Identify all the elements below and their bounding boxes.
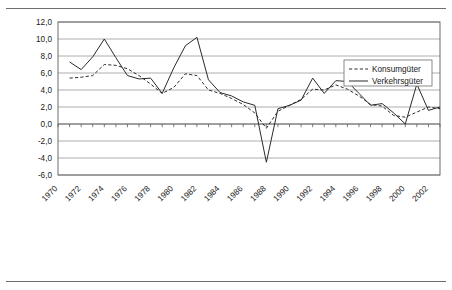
x-axis-tick-label: 1970 [40, 184, 60, 204]
y-axis-tick-label: 10,0 [36, 35, 52, 44]
y-axis-tick-label: 4,0 [41, 86, 53, 95]
legend-label-konsumgüter: Konsumgüter [372, 65, 421, 74]
y-axis-tick-label: 0,0 [41, 120, 53, 129]
x-axis-tick-label: 2000 [387, 184, 407, 204]
x-axis-tick-label: 1990 [272, 184, 292, 204]
y-axis-tick-label: 6,0 [41, 69, 53, 78]
y-axis-label-group: 12,010,08,06,04,02,00,0-2,0-4,0-6,0 [36, 18, 52, 180]
x-axis-tick-label: 1976 [110, 184, 130, 204]
x-axis-tick-label: 1978 [133, 184, 153, 204]
chart-plot-area: 12,010,08,06,04,02,00,0-2,0-4,0-6,0 1970… [0, 12, 452, 278]
x-axis-tick-label: 1992 [295, 184, 315, 204]
chart-legend: KonsumgüterVerkehrsgüter [344, 60, 432, 86]
gridline-group [58, 22, 440, 175]
x-axis-tick-group [58, 124, 440, 127]
y-axis-tick-label: -6,0 [38, 171, 53, 180]
x-axis-tick-label: 1996 [341, 184, 361, 204]
legend-label-verkehrsgüter: Verkehrsgüter [372, 77, 423, 86]
x-axis-tick-label: 1980 [156, 184, 176, 204]
y-axis-tick-label: 12,0 [36, 18, 52, 27]
y-axis-tick-label: -4,0 [38, 154, 53, 163]
x-axis-tick-label: 1998 [364, 184, 384, 204]
y-axis-tick-label: 2,0 [41, 103, 53, 112]
line-chart-svg: 12,010,08,06,04,02,00,0-2,0-4,0-6,0 1970… [0, 12, 452, 278]
x-axis-tick-label: 1974 [86, 184, 106, 204]
bottom-divider-rule [6, 281, 446, 282]
chart-figure: 12,010,08,06,04,02,00,0-2,0-4,0-6,0 1970… [0, 0, 452, 290]
top-divider-rule [6, 8, 446, 9]
y-axis-tick-label: -2,0 [38, 137, 53, 146]
x-axis-tick-label: 1986 [225, 184, 245, 204]
x-axis-tick-label: 1994 [318, 184, 338, 204]
y-axis-tick-label: 8,0 [41, 52, 53, 61]
x-axis-label-group: 1970197219741976197819801982198419861988… [40, 184, 430, 204]
x-axis-tick-label: 1984 [202, 184, 222, 204]
x-axis-tick-label: 1972 [63, 184, 83, 204]
x-axis-tick-label: 2002 [411, 184, 431, 204]
x-axis-tick-label: 1988 [249, 184, 269, 204]
x-axis-tick-label: 1982 [179, 184, 199, 204]
plot-frame-border [58, 22, 440, 175]
